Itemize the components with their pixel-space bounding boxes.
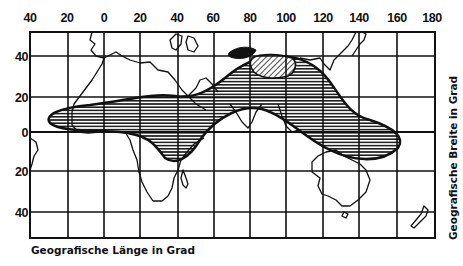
- x-tick-label: 20: [134, 11, 147, 25]
- y-tick-label: 20: [8, 91, 28, 105]
- x-tick-label: 20: [61, 11, 74, 25]
- x-tick-label: 40: [171, 11, 184, 25]
- x-tick-label: 40: [24, 11, 37, 25]
- x-tick-label: 100: [276, 11, 295, 25]
- y-tick-label: 20: [8, 165, 28, 179]
- x-tick-label: 120: [313, 11, 332, 25]
- y-tick-label: 40: [8, 50, 28, 64]
- x-axis-title: Geografische Länge in Grad: [31, 244, 195, 256]
- y-axis-title: Geografische Breite in Grad: [447, 76, 459, 240]
- y-tick-label: 40: [8, 206, 28, 220]
- x-tick-label: 0: [101, 11, 107, 25]
- world-map: [0, 0, 463, 266]
- y-tick-label: 0: [8, 126, 28, 140]
- x-tick-label: 160: [387, 11, 406, 25]
- x-tick-label: 60: [207, 11, 220, 25]
- x-tick-label: 180: [422, 11, 441, 25]
- horizontal-hatched-region: [49, 56, 401, 161]
- x-tick-label: 80: [244, 11, 257, 25]
- x-tick-label: 140: [349, 11, 368, 25]
